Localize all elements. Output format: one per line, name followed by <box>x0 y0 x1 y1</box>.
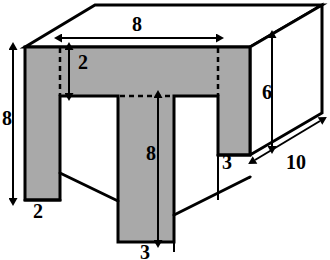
dimension-label-center-height: 8 <box>146 143 156 163</box>
isometric-block-drawing <box>0 0 330 260</box>
dimension-label-right-width: 3 <box>222 152 232 172</box>
dimension-label-top-width: 8 <box>132 14 142 34</box>
left-notch-interior <box>60 96 118 201</box>
dimension-label-left-leg-width: 2 <box>33 201 43 221</box>
dimension-label-depth: 10 <box>286 152 306 172</box>
dimension-label-notch-depth: 2 <box>78 52 88 72</box>
dimension-label-right-height: 6 <box>262 82 272 102</box>
technical-drawing-figure: 8 2 8 2 8 3 6 3 10 <box>0 0 330 260</box>
dimension-label-left-height: 8 <box>2 108 12 128</box>
dimension-label-center-width: 3 <box>140 242 150 260</box>
